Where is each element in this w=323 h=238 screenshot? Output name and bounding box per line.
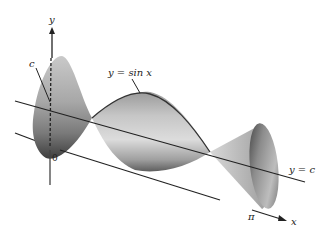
x-axis-arrowhead: [278, 215, 287, 221]
middle-lobe-surface: [92, 92, 210, 172]
sin-leader-line: [132, 79, 140, 93]
left-lobe-surface: [33, 56, 92, 159]
axis-of-rotation-label: y = c: [288, 164, 315, 175]
y-axis-label: y: [48, 14, 55, 25]
origin-label: 0: [52, 153, 58, 163]
curve-label: y = sin x: [107, 67, 152, 78]
c-label: c: [29, 58, 35, 69]
y-axis-arrowhead: [49, 27, 55, 34]
solid-of-revolution-diagram: y c y = sin x 0 y = c π x: [0, 0, 323, 238]
x-axis-label: x: [291, 216, 297, 227]
pi-label: π: [247, 211, 255, 222]
